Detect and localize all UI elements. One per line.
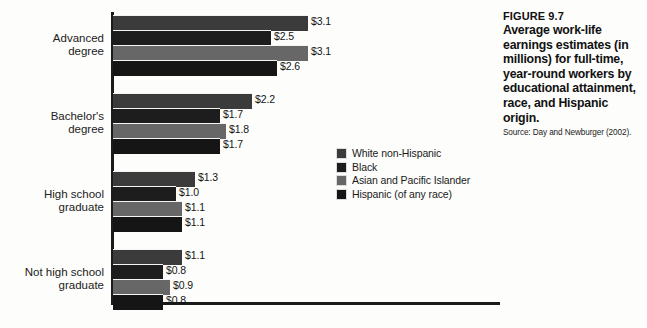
bar xyxy=(113,279,170,295)
category-label: High school graduate xyxy=(0,188,107,215)
bar-value-label: $1.1 xyxy=(182,248,205,263)
figure-caption: FIGURE 9.7 Average work-life earnings es… xyxy=(503,9,643,138)
bar xyxy=(113,123,226,139)
legend-label: Hispanic (of any race) xyxy=(352,188,452,201)
bar-value-label: $3.1 xyxy=(308,14,331,29)
bar xyxy=(113,30,271,46)
bar xyxy=(113,201,182,217)
bar-value-label: $0.9 xyxy=(170,278,193,293)
legend-item: White non-Hispanic xyxy=(336,147,496,160)
figure-9-7: $3.1$2.5$3.1$2.6$2.2$1.7$1.8$1.7$1.3$1.0… xyxy=(0,0,647,328)
bar-value-label: $1.7 xyxy=(220,137,243,152)
bar-value-label: $1.8 xyxy=(226,122,249,137)
legend-label: Black xyxy=(352,161,377,174)
legend-label: White non-Hispanic xyxy=(352,147,441,160)
bar xyxy=(113,138,220,154)
bar xyxy=(113,294,163,310)
bar xyxy=(113,264,163,280)
bar-value-label: $2.6 xyxy=(277,59,300,74)
category-label-text: High school graduate xyxy=(0,188,104,215)
figure-number: FIGURE 9.7 xyxy=(503,9,643,23)
bar-value-label: $0.8 xyxy=(163,263,186,278)
legend-swatch-icon xyxy=(336,162,347,173)
bar-value-label: $1.1 xyxy=(182,215,205,230)
bar xyxy=(113,60,277,76)
bar-value-label: $2.2 xyxy=(252,92,275,107)
legend-item: Asian and Pacific Islander xyxy=(336,174,496,187)
bar xyxy=(113,216,182,232)
legend-swatch-icon xyxy=(336,148,347,159)
category-label: Bachelor's degree xyxy=(0,110,107,137)
category-label: Advanced degree xyxy=(0,32,107,59)
bar-value-label: $0.8 xyxy=(163,293,186,308)
category-label-text: Advanced degree xyxy=(0,32,104,59)
legend-item: Black xyxy=(336,161,496,174)
category-label-text: Not high school graduate xyxy=(0,266,104,293)
chart-legend: White non-HispanicBlackAsian and Pacific… xyxy=(336,147,496,201)
bar-value-label: $1.7 xyxy=(220,107,243,122)
legend-swatch-icon xyxy=(336,175,347,186)
bar-value-label: $3.1 xyxy=(308,44,331,59)
bar-value-label: $1.0 xyxy=(176,185,199,200)
legend-swatch-icon xyxy=(336,189,347,200)
legend-label: Asian and Pacific Islander xyxy=(352,174,470,187)
bar-value-label: $1.1 xyxy=(182,200,205,215)
category-label: Not high school graduate xyxy=(0,266,107,293)
bar-value-label: $2.5 xyxy=(271,29,294,44)
figure-title: Average work-life earnings estimates (in… xyxy=(503,23,643,125)
bar-value-label: $1.3 xyxy=(195,170,218,185)
category-label-text: Bachelor's degree xyxy=(0,110,104,137)
figure-source: Source: Day and Newburger (2002). xyxy=(503,127,643,138)
legend-item: Hispanic (of any race) xyxy=(336,188,496,201)
bar xyxy=(113,108,220,124)
bar xyxy=(113,186,176,202)
